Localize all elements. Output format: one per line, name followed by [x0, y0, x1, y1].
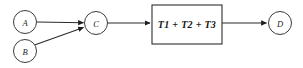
flow-diagram-container: A B C T1 + T2 + T3 D — [0, 0, 303, 68]
process-box[interactable]: T1 + T2 + T3 — [152, 5, 222, 44]
edge-b-to-c-line — [35, 28, 84, 46]
node-a[interactable]: A — [14, 11, 37, 34]
node-b[interactable]: B — [14, 40, 37, 63]
node-b-label: B — [22, 47, 27, 57]
node-c-label: C — [93, 19, 99, 29]
node-d[interactable]: D — [269, 12, 292, 35]
edge-b-to-c — [35, 28, 84, 46]
node-c[interactable]: C — [85, 12, 108, 35]
node-d-label: D — [276, 19, 284, 29]
process-box-label: T1 + T2 + T3 — [158, 19, 216, 30]
edge-a-to-c — [37, 22, 84, 23]
edge-a-to-c-line — [37, 22, 84, 23]
node-a-label: A — [21, 18, 28, 28]
diagram-canvas: A B C T1 + T2 + T3 D — [0, 0, 303, 68]
